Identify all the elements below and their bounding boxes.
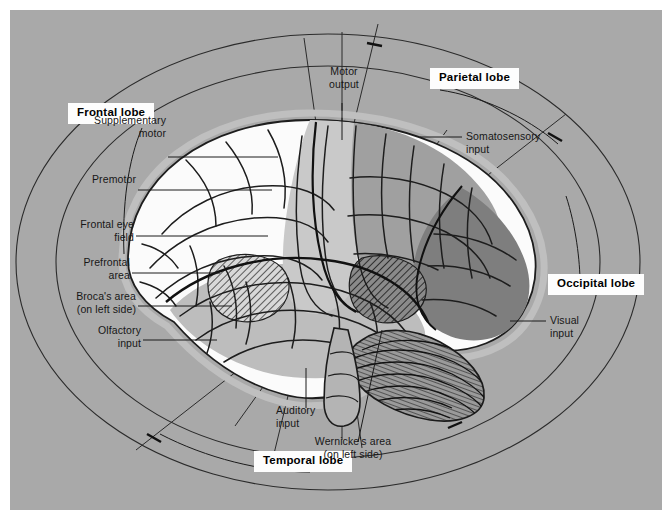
lobe-label-parietal[interactable]: Parietal lobe [430, 68, 519, 89]
label-brocas-area-line2: (on left side) [10, 303, 136, 316]
label-somatosensory-input[interactable]: Somatosensory input [466, 130, 540, 155]
label-prefrontal-area-line1: Prefrontal [10, 256, 130, 269]
label-olfactory-input[interactable]: Olfactory input [10, 324, 141, 349]
label-frontal-eye-field-line2: field [10, 231, 134, 244]
label-supplementary-motor-line2: motor [10, 127, 166, 140]
label-olfactory-input-line2: input [10, 337, 141, 350]
label-auditory-input-line1: Auditory [276, 404, 315, 417]
label-motor-output[interactable]: Motor output [322, 65, 366, 90]
label-wernickes-area[interactable]: Wernicke's area (on left side) [298, 435, 408, 460]
label-brocas-area-line1: Broca's area [10, 290, 136, 303]
label-visual-input-line2: input [550, 327, 579, 340]
lobe-label-occipital[interactable]: Occipital lobe [548, 274, 644, 295]
label-auditory-input-line2: input [276, 417, 315, 430]
label-wernickes-area-line2: (on left side) [298, 448, 408, 461]
label-wernickes-area-line1: Wernicke's area [298, 435, 408, 448]
figure-page: Frontal lobe Parietal lobe Occipital lob… [0, 0, 672, 525]
label-motor-output-line2: output [322, 78, 366, 91]
label-frontal-eye-field[interactable]: Frontal eye field [10, 218, 134, 243]
figure-plate: Frontal lobe Parietal lobe Occipital lob… [10, 10, 662, 510]
label-supplementary-motor-line1: Supplementary [10, 114, 166, 127]
label-olfactory-input-line1: Olfactory [10, 324, 141, 337]
label-brocas-area[interactable]: Broca's area (on left side) [10, 290, 136, 315]
label-supplementary-motor[interactable]: Supplementary motor [10, 114, 166, 139]
label-auditory-input[interactable]: Auditory input [276, 404, 315, 429]
label-prefrontal-area-line2: area [10, 269, 130, 282]
label-prefrontal-area[interactable]: Prefrontal area [10, 256, 130, 281]
label-somatosensory-input-line1: Somatosensory [466, 130, 540, 143]
label-premotor[interactable]: Premotor [10, 173, 136, 186]
label-somatosensory-input-line2: input [466, 143, 540, 156]
label-motor-output-line1: Motor [322, 65, 366, 78]
label-visual-input[interactable]: Visual input [550, 314, 579, 339]
label-visual-input-line1: Visual [550, 314, 579, 327]
label-frontal-eye-field-line1: Frontal eye [10, 218, 134, 231]
